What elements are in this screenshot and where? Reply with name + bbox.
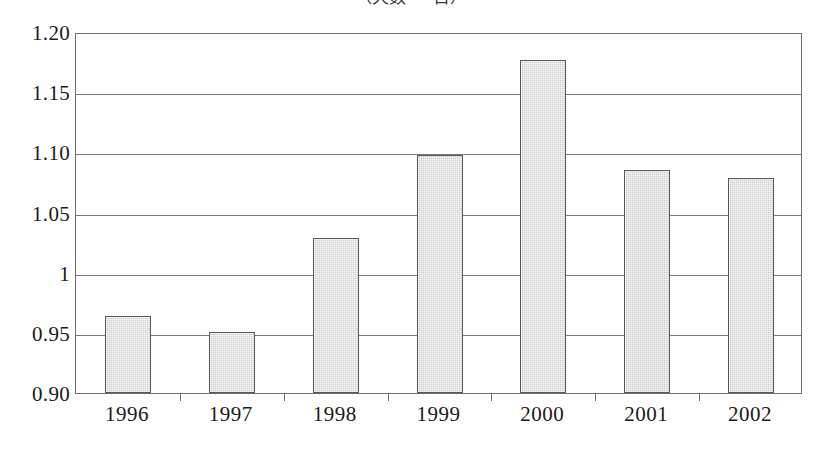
y-axis-tick-label: 1.05 [2,201,70,226]
bar [417,155,463,393]
y-axis-tick-label: 1 [2,261,70,286]
x-axis-tick [699,393,700,401]
chart-title-clipped-region: （天数 ・ 日） [0,0,822,14]
y-axis-tick-label: 0.95 [2,321,70,346]
x-axis-tick-label: 1996 [75,402,179,427]
y-axis-tick-label: 1.10 [2,141,70,166]
chart-title: （天数 ・ 日） [0,0,822,8]
x-axis-tick-label: 2000 [490,402,594,427]
x-axis-tick [491,393,492,401]
x-axis-tick-label: 2001 [594,402,698,427]
x-axis-tick-label: 1998 [283,402,387,427]
y-axis-tick-label: 1.15 [2,81,70,106]
y-axis-tick-label: 0.90 [2,382,70,407]
bar [520,60,566,393]
bar [105,316,151,393]
x-axis-tick [388,393,389,401]
gridline [76,94,801,95]
bar [728,178,774,393]
bar-chart-figure: （天数 ・ 日） 1.201.151.101.0510.950.90 19961… [0,0,822,450]
plot-area [75,33,802,394]
x-axis-tick [284,393,285,401]
x-axis-tick-label: 2002 [698,402,802,427]
x-axis-tick-label: 1999 [387,402,491,427]
x-axis-tick-label: 1997 [179,402,283,427]
bar [209,332,255,393]
bar [313,238,359,393]
bar [624,170,670,393]
x-axis-tick [180,393,181,401]
x-axis-tick [595,393,596,401]
y-axis: 1.201.151.101.0510.950.90 [0,0,70,450]
y-axis-tick-label: 1.20 [2,21,70,46]
